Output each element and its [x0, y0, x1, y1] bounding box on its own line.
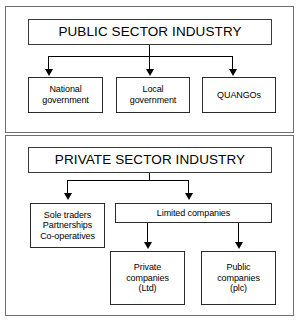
node-private-companies-line-3: (Ltd) [138, 283, 156, 294]
arrowhead-unincorporated [64, 193, 72, 200]
arrowhead-limited-companies [185, 193, 193, 200]
node-unincorporated-line-2: Partnerships [43, 220, 92, 231]
private-bus-horizontal [67, 180, 189, 181]
node-public-companies-line-2: companies [217, 273, 260, 284]
arrowhead-local-government [146, 69, 154, 76]
arrowhead-public-companies [235, 242, 243, 249]
node-quangos-line-1: QUANGOs [217, 90, 261, 101]
public-sector-heading-box: PUBLIC SECTOR INDUSTRY [28, 19, 272, 45]
node-local-government-line-2: government [130, 95, 177, 106]
node-private-companies-line-1: Private [134, 262, 161, 273]
node-national-government: National government [28, 77, 103, 113]
arrowhead-quangos [229, 69, 237, 76]
public-bus-horizontal [48, 56, 232, 57]
connector-to-public-companies [238, 223, 239, 243]
connector-to-private-companies [147, 223, 148, 243]
connector-to-local-government [149, 56, 150, 70]
public-sector-heading-label: PUBLIC SECTOR INDUSTRY [58, 24, 241, 40]
node-unincorporated-line-1: Sole traders [44, 210, 91, 221]
connector-to-national-government [48, 56, 49, 70]
node-quangos: QUANGOs [202, 77, 276, 113]
private-sector-heading-label: PRIVATE SECTOR INDUSTRY [55, 152, 245, 168]
node-public-companies-line-3: (plc) [230, 283, 247, 294]
node-limited-companies: Limited companies [115, 203, 272, 223]
connector-to-unincorporated [67, 180, 68, 194]
arrowhead-national-government [45, 69, 53, 76]
connector-to-quangos [232, 56, 233, 70]
node-public-companies-line-1: Public [227, 262, 251, 273]
node-public-companies: Public companies (plc) [201, 251, 276, 305]
node-private-companies-line-2: companies [126, 273, 169, 284]
node-local-government-line-1: Local [142, 84, 163, 95]
node-unincorporated-line-3: Co-operatives [40, 231, 95, 242]
node-limited-companies-line-1: Limited companies [157, 208, 230, 219]
org-structure-diagram: PUBLIC SECTOR INDUSTRY National governme… [0, 0, 300, 323]
node-national-government-line-2: government [42, 95, 89, 106]
node-private-companies: Private companies (Ltd) [110, 251, 185, 305]
node-national-government-line-1: National [49, 84, 81, 95]
arrowhead-private-companies [144, 242, 152, 249]
public-bus-stem [149, 45, 150, 56]
node-local-government: Local government [116, 77, 190, 113]
private-bus-stem [149, 173, 150, 180]
node-unincorporated-forms: Sole traders Partnerships Co-operatives [30, 203, 105, 248]
connector-to-limited-companies [188, 180, 189, 194]
private-sector-heading-box: PRIVATE SECTOR INDUSTRY [28, 147, 272, 173]
